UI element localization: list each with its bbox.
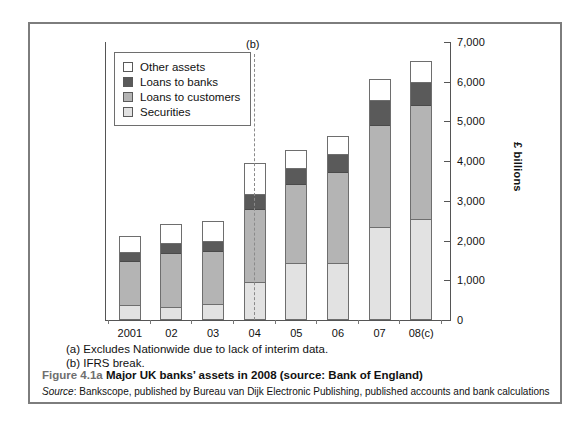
bar-segment-other xyxy=(286,151,306,169)
bar-02 xyxy=(160,224,182,320)
figure-caption: Figure 4.1a Major UK banks’ assets in 20… xyxy=(42,369,548,381)
bar-03 xyxy=(202,221,224,320)
bar-segment-securities xyxy=(370,228,390,319)
y-axis-title: £ billions xyxy=(512,142,524,192)
figure-number: Figure 4.1a xyxy=(42,369,103,381)
bar-segment-securities xyxy=(161,308,181,319)
source-line: Source: Bankscope, published by Bureau v… xyxy=(42,386,548,397)
legend-item: Other assets xyxy=(123,59,240,74)
x-axis-tick-label: 02 xyxy=(165,327,177,339)
bar-segment-securities xyxy=(203,305,223,319)
bar-segment-other xyxy=(370,80,390,102)
bar-segment-other xyxy=(203,222,223,243)
y-axis-tick-label: 0 xyxy=(457,314,463,326)
x-axis-tick-label: 03 xyxy=(207,327,219,339)
figure-title: Major UK banks’ assets in 2008 (source: … xyxy=(106,369,423,381)
bar-segment-banks xyxy=(286,169,306,185)
x-axis-tick xyxy=(233,320,234,324)
footnote-b: (b) IFRS break. xyxy=(66,356,328,370)
y-axis-tick xyxy=(444,241,451,242)
y-axis-tick xyxy=(444,280,451,281)
bar-segment-banks xyxy=(161,244,181,254)
y-axis-tick-label: 5,000 xyxy=(457,115,485,127)
bar-segment-other xyxy=(120,237,140,252)
x-axis-line xyxy=(105,320,450,321)
source-keyword: Source xyxy=(42,386,74,397)
x-axis-tick-label: 07 xyxy=(373,327,385,339)
bar-segment-banks xyxy=(203,242,223,252)
y-axis-tick-label: 7,000 xyxy=(457,36,485,48)
legend-label: Other assets xyxy=(140,61,205,73)
y-axis-tick-label: 3,000 xyxy=(457,195,485,207)
bar-segment-customers xyxy=(328,173,348,264)
x-axis-tick-label: 04 xyxy=(249,327,261,339)
x-axis-tick xyxy=(316,320,317,324)
x-axis-tick xyxy=(441,320,442,324)
y-axis-tick-label: 1,000 xyxy=(457,274,485,286)
chart-area: 01,0002,0003,0004,0005,0006,0007,000 £ b… xyxy=(30,24,564,364)
y-axis-tick xyxy=(444,320,451,321)
x-axis-tick xyxy=(275,320,276,324)
figure-frame: 01,0002,0003,0004,0005,0006,0007,000 £ b… xyxy=(28,22,562,404)
bar-05 xyxy=(285,150,307,320)
x-axis-tick-label: 06 xyxy=(332,327,344,339)
legend-swatch-other xyxy=(123,62,133,72)
bar-segment-customers xyxy=(411,106,431,220)
bar-segment-securities xyxy=(120,306,140,319)
footnote-a: (a) Excludes Nationwide due to lack of i… xyxy=(66,342,328,356)
legend-item: Loans to banks xyxy=(123,74,240,89)
bar-segment-other xyxy=(328,137,348,156)
legend-swatch-customers xyxy=(123,92,133,102)
bar-06 xyxy=(327,136,349,320)
legend-label: Loans to customers xyxy=(140,91,240,103)
bar-segment-banks xyxy=(411,83,431,107)
footnotes: (a) Excludes Nationwide due to lack of i… xyxy=(66,342,328,370)
legend-item: Loans to customers xyxy=(123,89,240,104)
y-axis-tick xyxy=(444,201,451,202)
ifrs-break-line xyxy=(254,54,255,320)
y-axis-tick xyxy=(444,42,451,43)
x-axis-tick-label: 08(c) xyxy=(409,327,434,339)
caption-block: Figure 4.1a Major UK banks’ assets in 20… xyxy=(30,369,560,397)
y-axis-tick xyxy=(444,82,451,83)
ifrs-break-label: (b) xyxy=(246,38,259,50)
x-axis-tick-label: 05 xyxy=(290,327,302,339)
bar-segment-securities xyxy=(286,264,306,319)
y-axis-right-line xyxy=(450,42,451,320)
bar-segment-securities xyxy=(328,264,348,319)
bar-2001 xyxy=(119,236,141,320)
bar-segment-other xyxy=(411,62,431,83)
bar-segment-other xyxy=(161,225,181,244)
x-axis-tick xyxy=(108,320,109,324)
legend-swatch-banks xyxy=(123,77,133,87)
bar-segment-customers xyxy=(286,185,306,265)
x-axis-tick xyxy=(150,320,151,324)
x-axis-tick xyxy=(358,320,359,324)
bar-segment-customers xyxy=(120,262,140,306)
y-axis-tick-label: 4,000 xyxy=(457,155,485,167)
x-axis-tick xyxy=(191,320,192,324)
legend-label: Loans to banks xyxy=(140,76,218,88)
y-axis-tick-label: 2,000 xyxy=(457,235,485,247)
bar-segment-securities xyxy=(411,220,431,319)
bar-segment-customers xyxy=(370,126,390,228)
bar-segment-banks xyxy=(120,253,140,262)
bar-segment-banks xyxy=(328,155,348,173)
bar-segment-customers xyxy=(203,252,223,304)
y-axis-tick xyxy=(444,161,451,162)
bar-08c xyxy=(410,61,432,320)
legend-label: Securities xyxy=(140,106,191,118)
legend-swatch-securities xyxy=(123,107,133,117)
bar-segment-customers xyxy=(161,254,181,307)
x-axis-tick xyxy=(399,320,400,324)
x-axis-tick-label: 2001 xyxy=(118,327,142,339)
bar-segment-banks xyxy=(370,101,390,126)
bar-07 xyxy=(369,79,391,320)
legend-item: Securities xyxy=(123,104,240,119)
source-text: : Bankscope, published by Bureau van Dij… xyxy=(74,386,550,397)
chart-legend: Other assetsLoans to banksLoans to custo… xyxy=(114,52,251,126)
y-axis-tick xyxy=(444,121,451,122)
y-axis-tick-label: 6,000 xyxy=(457,76,485,88)
